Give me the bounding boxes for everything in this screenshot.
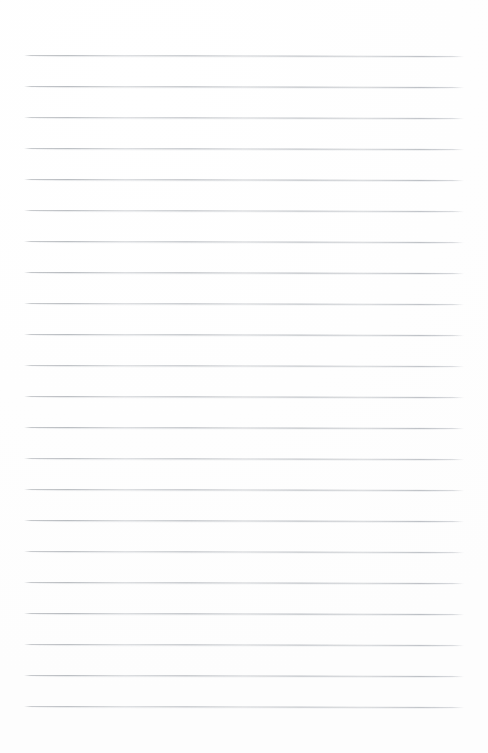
- writing-area[interactable]: [24, 40, 464, 720]
- lined-paper-page: [0, 0, 488, 753]
